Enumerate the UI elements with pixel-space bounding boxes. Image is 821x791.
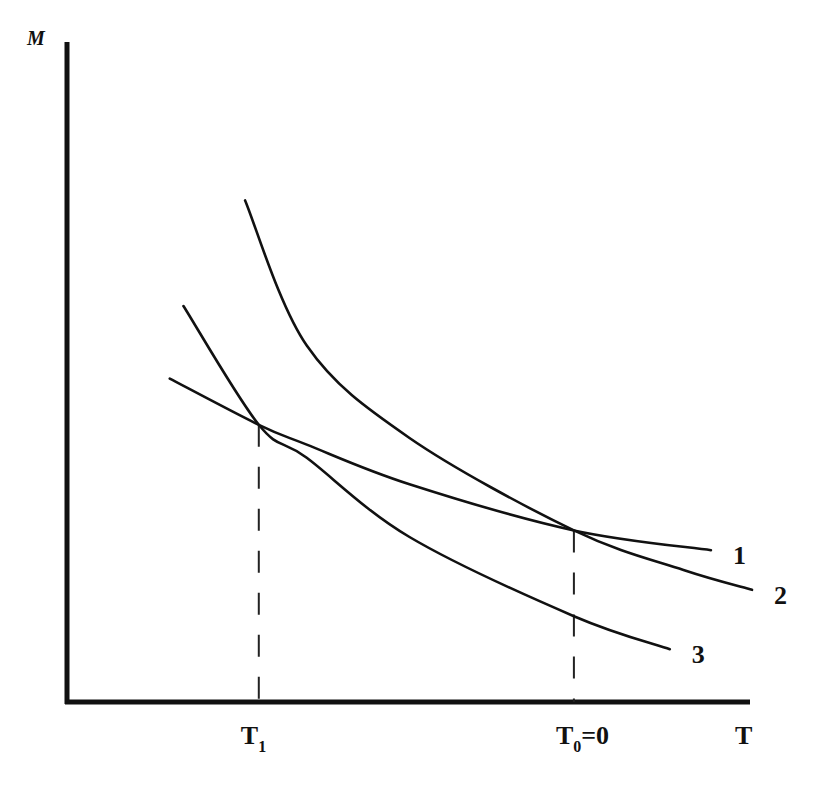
curve-3 [183,306,669,649]
dashed-guides [259,425,574,702]
y-axis-label: M [26,27,46,49]
x-axis-label: T [735,721,752,750]
curve-label-1: 1 [733,541,746,570]
chart: M T 123 T1T0=0 [0,0,821,791]
curve-label-3: 3 [692,640,705,669]
x-tick-label-2: T0=0 [556,721,609,755]
curve-2 [245,200,752,589]
curve-label-2: 2 [774,581,787,610]
x-tick-label-1: T1 [241,721,266,755]
curve-1 [170,379,711,551]
curves: 123 [170,200,787,669]
x-tick-labels: T1T0=0 [241,721,609,755]
